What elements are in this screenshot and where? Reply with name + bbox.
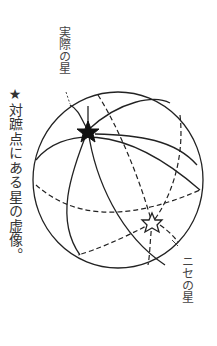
real-star-label: 実際の星	[57, 26, 69, 74]
great-circle-front-3	[88, 130, 165, 265]
great-circle-back-1	[36, 185, 200, 212]
great-circle-front-5	[88, 100, 170, 130]
great-circle-back-2	[98, 95, 152, 223]
real-star-leader-line	[66, 92, 70, 104]
great-circle-back-5	[78, 223, 152, 255]
great-circle-front-1	[36, 137, 200, 190]
great-circle-front-7	[95, 134, 197, 165]
real-star-icon	[77, 121, 99, 142]
fake-star-label: ニセの星	[180, 255, 192, 303]
great-circle-front-2	[67, 130, 88, 255]
great-circle-back-6	[160, 225, 178, 242]
great-circle-back-3	[152, 115, 181, 223]
fake-star-icon	[142, 213, 162, 232]
great-circle-front-4	[70, 105, 88, 130]
diagram-caption: ★対蹠点にある星の虚像。	[8, 86, 22, 262]
